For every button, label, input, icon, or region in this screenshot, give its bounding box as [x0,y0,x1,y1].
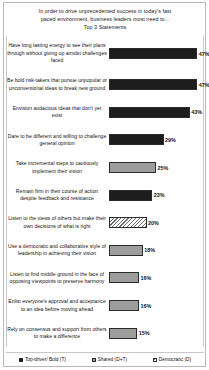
bar-row: Be bold risk-takers that pursue unpopula… [7,71,203,99]
legend-label: Top-driver/ Bold (T) [25,357,66,362]
bar-row: Have long lasting energy to see their pl… [7,36,203,71]
bar-track: 16% [109,264,203,292]
bar-rows: Have long lasting energy to see their pl… [7,36,203,347]
legend-item-top-driver-bold[interactable]: Top-driver/ Bold (T) [19,357,66,362]
legend-item-shared[interactable]: Shared (D+T) [92,357,127,362]
chart-figure: In order to drive unprecedented success … [0,0,209,370]
category-label: Remain firm in their course of action de… [7,188,109,203]
bar: 47% [109,48,197,59]
bar-value-label: 29% [165,137,176,143]
bar-value-label: 20% [148,220,159,226]
bar-value-label: 23% [154,192,165,198]
chart-title-line-2: paced environment, business leaders most… [14,15,196,23]
category-label: Use a democratic and collaborative style… [7,243,109,258]
category-label: Enlist everyone's approval and acceptanc… [7,298,109,313]
bar-row: Enlist everyone's approval and acceptanc… [7,292,203,320]
bar-row: Envision audacious ideas that don't yet … [7,99,203,127]
plot-area: Have long lasting energy to see their pl… [6,36,204,347]
legend-label: Democratic (D) [159,357,191,362]
category-label: Dare to be different and willing to chal… [7,133,109,148]
bar-row: Listen to find middle ground in the face… [7,264,203,292]
bar-track: 47% [109,71,203,99]
bar-row: Listen to the views of others but make t… [7,209,203,237]
category-label: Listen to find middle ground in the face… [7,271,109,286]
bar: 16% [109,300,139,311]
bar: 23% [109,190,152,201]
bar-track: 29% [109,126,203,154]
category-label: Have long lasting energy to see their pl… [7,42,109,64]
chart-title: In order to drive unprecedented success … [14,7,196,31]
bar-row: Dare to be different and willing to chal… [7,126,203,154]
bar-track: 20% [109,209,203,237]
bar-value-label: 16% [141,303,152,309]
bar: 43% [109,107,190,118]
category-label: Listen to the views of others but make t… [7,215,109,230]
category-label: Be bold risk-takers that pursue unpopula… [7,77,109,92]
legend-swatch-icon [19,358,23,362]
bar-track: 43% [109,99,203,127]
bar-track: 47% [109,36,203,71]
chart-title-line-3: Top 3 Statements [14,23,196,31]
bar-value-label: 47% [199,82,209,88]
legend-swatch-icon [92,358,96,362]
bar-value-label: 43% [191,109,202,115]
bar-track: 23% [109,181,203,209]
bar: 29% [109,134,164,145]
legend-item-democratic[interactable]: Democratic (D) [153,357,191,362]
bar-track: 25% [109,154,203,182]
category-label: Rely on consensus and support from other… [7,326,109,341]
legend-label: Shared (D+T) [98,357,127,362]
bar: 47% [109,79,197,90]
bar: 20% [109,217,147,228]
bar-track: 16% [109,292,203,320]
bar-value-label: 18% [144,247,155,253]
bar-value-label: 16% [141,275,152,281]
bar-value-label: 15% [139,330,150,336]
bar: 16% [109,272,139,283]
category-label: Take incremental steps to cautiously imp… [7,160,109,175]
bar-value-label: 25% [158,165,169,171]
bar-value-label: 47% [199,51,209,57]
chart-title-line-1: In order to drive unprecedented success … [14,7,196,15]
bar-row: Use a democratic and collaborative style… [7,237,203,265]
chart-legend: Top-driver/ Bold (T)Shared (D+T)Democrat… [6,352,204,366]
bar: 25% [109,162,156,173]
bar: 15% [109,328,137,339]
bar-track: 18% [109,237,203,265]
legend-swatch-icon [153,358,157,362]
bar: 18% [109,245,143,256]
bar-row: Rely on consensus and support from other… [7,319,203,347]
bar-track: 15% [109,319,203,347]
bar-row: Remain firm in their course of action de… [7,181,203,209]
bar-row: Take incremental steps to cautiously imp… [7,154,203,182]
category-label: Envision audacious ideas that don't yet … [7,105,109,120]
